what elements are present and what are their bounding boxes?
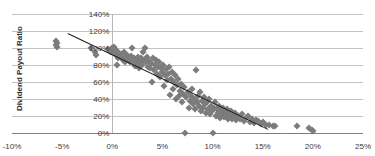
x-axis-tick-label: 5%: [157, 142, 169, 151]
data-point: [209, 129, 216, 136]
y-axis-line: [112, 14, 113, 133]
y-axis-tick-label: 80%: [0, 61, 109, 70]
y-axis-tick-label: 60%: [0, 78, 109, 87]
data-point: [114, 61, 121, 68]
data-point: [161, 83, 168, 90]
scatter-chart: Dividend Payout Ratio 0%20%40%60%80%100%…: [0, 0, 375, 156]
y-axis-tick-label: 120%: [0, 27, 109, 36]
y-axis-tick-label: 100%: [0, 44, 109, 53]
x-axis-tick-label: 25%: [355, 142, 371, 151]
data-point: [182, 129, 189, 136]
y-axis-tick-label: 20%: [0, 112, 109, 121]
x-axis-tick-label: -5%: [55, 142, 69, 151]
data-point: [192, 67, 199, 74]
y-axis-tick-label: 40%: [0, 95, 109, 104]
y-axis-tick-label: 0%: [0, 129, 109, 138]
data-point: [149, 78, 156, 85]
x-axis-tick-label: -10%: [3, 142, 22, 151]
x-axis-tick-label: 0%: [107, 142, 119, 151]
x-axis-tick-label: 20%: [305, 142, 321, 151]
data-point: [293, 123, 300, 130]
x-axis-tick-label: 15%: [255, 142, 271, 151]
y-axis-tick-label: 140%: [0, 10, 109, 19]
x-axis-tick-label: 10%: [205, 142, 221, 151]
data-point: [129, 44, 136, 51]
